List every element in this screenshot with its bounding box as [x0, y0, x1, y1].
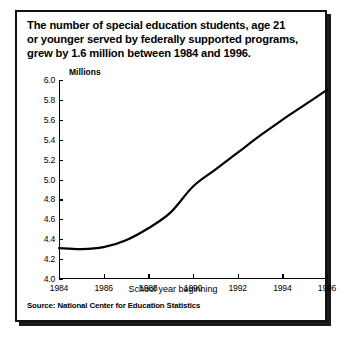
y-tick-mark — [59, 279, 63, 280]
x-tick-mark — [327, 274, 328, 279]
chart-title: The number of special education students… — [27, 18, 315, 61]
y-tick-label: 4.4 — [44, 234, 55, 244]
y-tick-label: 5.0 — [44, 175, 55, 185]
chart-title-line-2: or younger served by federally supported… — [27, 32, 315, 46]
chart-title-line-1: The number of special education students… — [27, 18, 315, 32]
source-note: Source: National Center for Education St… — [27, 301, 200, 310]
x-axis-title: School year beginning — [17, 284, 329, 294]
y-tick-label: 5.8 — [44, 95, 55, 105]
axis-box: 4.04.24.44.64.85.05.25.45.65.86.0 198419… — [59, 80, 327, 279]
chart-figure-frame: The number of special education students… — [15, 10, 327, 322]
data-line-path — [59, 90, 327, 249]
y-axis-unit-label: Millions — [69, 67, 101, 77]
chart-title-line-3: grew by 1.6 million between 1984 and 199… — [27, 46, 315, 60]
y-tick-label: 5.4 — [44, 135, 55, 145]
y-tick-label: 4.6 — [44, 214, 55, 224]
y-tick-label: 4.2 — [44, 254, 55, 264]
y-tick-label: 4.8 — [44, 194, 55, 204]
plot-area: 4.04.24.44.64.85.05.25.45.65.86.0 198419… — [59, 80, 327, 279]
y-tick-label: 5.6 — [44, 115, 55, 125]
data-line-svg — [59, 80, 327, 279]
y-tick-label: 5.2 — [44, 155, 55, 165]
y-tick-label: 6.0 — [44, 75, 55, 85]
